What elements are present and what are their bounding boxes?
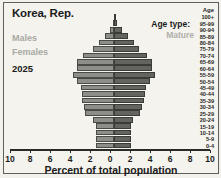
bar-male-35-39	[82, 98, 114, 104]
pyramid-row	[10, 117, 210, 123]
pyramid-row-bars	[10, 91, 210, 97]
pyramid-row	[10, 14, 210, 20]
x-tick-label-8: 6	[160, 154, 180, 164]
bar-male-25-29	[85, 110, 114, 116]
pyramid-row-bars	[10, 117, 210, 123]
age-label-40-44: 40-44	[200, 91, 214, 97]
bar-male-65-69	[77, 59, 114, 65]
chart-frame: Korea, Rep. Males Females 2025 Age type:…	[3, 2, 219, 174]
x-tick-8	[170, 150, 171, 153]
age-label-90-94: 90-94	[200, 27, 214, 33]
pyramid-row-bars	[10, 143, 210, 149]
pyramid-row-bars	[10, 46, 210, 52]
bar-male-0-4	[96, 143, 114, 149]
bar-female-70-74	[114, 53, 147, 59]
pyramid-row-bars	[10, 14, 210, 20]
bar-female-40-44	[114, 91, 145, 97]
pyramid-row-bars	[10, 53, 210, 59]
pyramid-row	[10, 27, 210, 33]
bar-female-30-34	[114, 104, 142, 110]
x-tick-7	[150, 150, 151, 153]
pyramid-row	[10, 91, 210, 97]
pyramid-row	[10, 65, 210, 71]
bar-female-25-29	[114, 110, 140, 116]
x-tick-10	[210, 150, 211, 153]
pyramid-row	[10, 33, 210, 39]
age-label-55-59: 55-59	[200, 72, 214, 78]
pyramid-row	[10, 78, 210, 84]
age-label-65-69: 65-69	[200, 59, 214, 65]
age-label-75-79: 75-79	[200, 46, 214, 52]
bar-male-80-84	[99, 40, 114, 46]
pyramid-row	[10, 40, 210, 46]
bar-female-15-19	[114, 123, 131, 129]
pyramid-row	[10, 85, 210, 91]
x-tick-label-1: 8	[20, 154, 40, 164]
x-tick-label-6: 2	[120, 154, 140, 164]
pyramid-row-bars	[10, 72, 210, 78]
bar-female-65-69	[114, 59, 152, 65]
bar-female-95-99	[114, 20, 117, 26]
x-tick-label-3: 4	[60, 154, 80, 164]
age-label-60-64: 60-64	[200, 66, 214, 72]
bar-female-60-64	[114, 65, 152, 71]
x-tick-2	[50, 150, 51, 153]
x-tick-label-7: 4	[140, 154, 160, 164]
bar-male-30-34	[84, 104, 114, 110]
age-label-85-89: 85-89	[200, 34, 214, 40]
age-label-20-24: 20-24	[200, 117, 214, 123]
pyramid-row-bars	[10, 78, 210, 84]
x-tick-label-10: 10	[200, 154, 220, 164]
pyramid-row	[10, 72, 210, 78]
age-label-45-49: 45-49	[200, 85, 214, 91]
pyramid-row-bars	[10, 27, 210, 33]
pyramid-row-bars	[10, 33, 210, 39]
pyramid-plot-area	[10, 14, 210, 149]
bar-female-100+	[114, 14, 116, 20]
pyramid-row-bars	[10, 85, 210, 91]
bar-female-35-39	[114, 98, 144, 104]
bar-male-10-14	[96, 130, 114, 136]
age-label-10-14: 10-14	[200, 130, 214, 136]
pyramid-row	[10, 143, 210, 149]
x-tick-3	[70, 150, 71, 153]
age-axis-header: Age	[203, 7, 214, 13]
bar-male-5-9	[96, 136, 114, 142]
bar-female-55-59	[114, 72, 155, 78]
pyramid-row	[10, 110, 210, 116]
pyramid-row	[10, 123, 210, 129]
bar-male-55-59	[73, 72, 114, 78]
bar-female-45-49	[114, 85, 146, 91]
age-label-80-84: 80-84	[200, 40, 214, 46]
pyramid-row-bars	[10, 65, 210, 71]
x-tick-4	[90, 150, 91, 153]
pyramid-row	[10, 136, 210, 142]
pyramid-row-bars	[10, 130, 210, 136]
x-tick-6	[130, 150, 131, 153]
bar-female-85-89	[114, 33, 128, 39]
pyramid-row	[10, 59, 210, 65]
pyramid-row	[10, 130, 210, 136]
age-label-25-29: 25-29	[200, 111, 214, 117]
age-label-30-34: 30-34	[200, 104, 214, 110]
pyramid-row-bars	[10, 98, 210, 104]
pyramid-row-bars	[10, 123, 210, 129]
bar-female-80-84	[114, 40, 134, 46]
age-label-70-74: 70-74	[200, 53, 214, 59]
bar-male-75-79	[93, 46, 114, 52]
bar-female-50-54	[114, 78, 150, 84]
x-axis-title: Percent of total population	[4, 164, 218, 176]
pyramid-row-bars	[10, 110, 210, 116]
age-label-0-4: 0-4	[206, 143, 214, 149]
age-label-35-39: 35-39	[200, 98, 214, 104]
bar-female-5-9	[114, 136, 131, 142]
x-tick-label-2: 6	[40, 154, 60, 164]
bar-female-20-24	[114, 117, 133, 123]
bar-male-70-74	[83, 53, 114, 59]
bar-male-50-54	[77, 78, 114, 84]
bar-male-20-24	[93, 117, 114, 123]
pyramid-row	[10, 104, 210, 110]
x-tick-label-0: 10	[0, 154, 20, 164]
bar-male-40-44	[82, 91, 114, 97]
bar-female-0-4	[114, 143, 131, 149]
